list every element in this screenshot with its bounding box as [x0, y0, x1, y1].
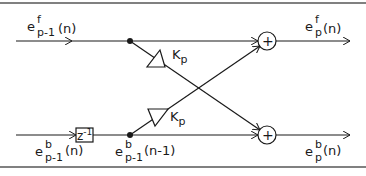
forward-input-label: e f p-1 (n) — [27, 14, 77, 36]
gain-triangle-top — [147, 50, 165, 67]
backward-input-label: e b p-1 (n) — [35, 138, 85, 164]
summer-top-symbol: + — [262, 34, 274, 48]
delayed-backward-label: e b p-1 (n-1) — [115, 138, 185, 164]
cross-line-down — [130, 41, 260, 130]
forward-output-label: e f p (n) — [305, 14, 355, 36]
backward-output-label: e b p (n) — [305, 138, 355, 164]
cross-line-up — [130, 46, 260, 135]
summer-bottom-symbol: + — [262, 128, 274, 142]
gain-label-top: Kp — [172, 48, 188, 61]
gain-label-bottom: Kp — [170, 110, 186, 123]
gain-triangle-bottom — [148, 109, 168, 126]
